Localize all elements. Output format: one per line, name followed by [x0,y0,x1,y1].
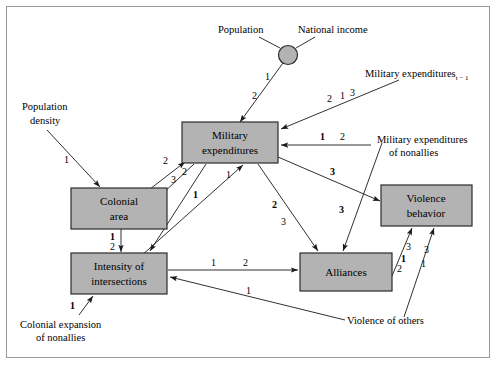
edge-label-me-to-ca-3: 3 [171,174,176,185]
edge-colonial-expansion-nonallies-to-intensity: 1 [70,296,93,315]
edge-label-lag-3: 3 [350,87,355,98]
edge-label-ca-to-me-2: 2 [163,155,168,166]
label-population-density-line1: Population [22,101,68,112]
figure-canvas: 1 2 2 1 3 1 2 1 2 3 2 [0,0,498,366]
edge-label-me-to-al-2: 2 [272,199,277,210]
edge-military-expenditures-nonallies-to-alliances: 3 [339,143,382,251]
edge-colonial-area-to-intensity: 1 2 [110,229,121,252]
node-intensity-line2: intersections [91,275,147,287]
edge-national-income-to-junction [296,37,315,48]
edge-population-density-to-colonial-area: 1 [47,130,100,187]
edge-military-expenditures-lag-to-military-expenditures: 2 1 3 [281,80,399,129]
edge-label-vo-to-vb-3: 3 [424,244,429,255]
label-violence-of-others: Violence of others [347,315,424,326]
node-violence-behavior-line1: Violence [406,192,445,204]
causal-diagram: 1 2 2 1 3 1 2 1 2 3 2 [0,0,498,366]
edge-military-expenditures-to-violence-behavior: 3 [278,157,380,201]
edge-population-to-junction [259,37,280,48]
svg-text:Military expenditurest − 1: Military expenditurest − 1 [365,68,469,82]
edge-label-me-to-ii-1: 1 [193,189,198,200]
label-population: Population [218,24,264,35]
node-alliances-line1: Alliances [325,266,367,278]
label-population-density-line2: density [30,115,61,126]
label-national-income: National income [298,24,368,35]
edge-label-me-to-vb-3: 3 [330,166,335,177]
node-intensity-of-intersections[interactable]: Intensity of intersections [71,253,167,294]
edge-label-al-to-vb-3: 3 [406,241,411,252]
edge-junction-to-military-expenditures: 1 2 [240,63,283,122]
edge-label-vo-to-ii-1: 1 [246,285,251,296]
edge-label-popdens-1: 1 [64,154,69,165]
label-military-expenditures-lag: Military expenditurest − 1 [365,68,469,82]
node-colonial-area-line2: area [110,210,128,222]
edge-label-ii-to-al-1: 1 [211,257,216,268]
node-violence-behavior-line2: behavior [407,207,446,219]
node-alliances[interactable]: Alliances [300,253,392,291]
edge-military-expenditures-nonallies-to-military-expenditures: 1 2 [281,131,371,145]
edge-military-expenditures-to-alliances: 2 3 [258,164,318,251]
edge-label-nonallies-me-2: 2 [340,131,345,142]
node-colonial-area[interactable]: Colonial area [71,188,167,229]
edge-label-ca-to-ii-2: 2 [110,241,115,252]
edge-label-junction-2: 2 [252,90,257,101]
edge-label-me-to-ca-2: 2 [182,166,187,177]
edge-label-ii-to-me-1: 1 [226,169,231,180]
edge-label-lag-2: 2 [327,93,332,104]
edge-label-ii-to-al-2: 2 [243,257,248,268]
label-colonial-expansion-line2: of nonallies [36,332,85,343]
edge-label-nonallies-me-1: 1 [320,131,325,142]
node-junction[interactable] [279,46,298,65]
node-intensity-line1: Intensity of [94,260,145,272]
node-colonial-area-line1: Colonial [100,195,138,207]
label-me-nonallies-line1: Military expenditures [377,134,468,145]
edge-label-nonallies-to-al-3: 3 [339,204,344,215]
label-me-nonallies-line2: of nonallies [389,147,438,158]
edge-intensity-to-alliances: 1 2 [168,257,298,270]
label-me-lag-subscript: t − 1 [456,74,469,82]
label-colonial-expansion-line1: Colonial expansion [20,319,102,330]
edge-label-junction-1: 1 [265,71,270,82]
label-me-lag-text: Military expenditures [365,68,456,79]
edge-label-me-to-al-3: 3 [281,216,286,227]
node-military-expenditures-line2: expenditures [202,144,258,156]
edge-label-al-to-vb-2: 2 [397,263,402,274]
node-military-expenditures-line1: Military [212,129,249,141]
edge-label-cen-to-ii-1: 1 [70,300,75,311]
edge-label-vo-to-vb-1: 1 [421,258,426,269]
node-military-expenditures[interactable]: Military expenditures [182,122,278,163]
edge-colonial-area-to-military-expenditures: 2 [150,155,185,189]
edge-alliances-to-violence-behavior: 3 1 2 [392,228,412,276]
edge-label-lag-1: 1 [340,90,345,101]
node-violence-behavior[interactable]: Violence behavior [381,185,472,226]
